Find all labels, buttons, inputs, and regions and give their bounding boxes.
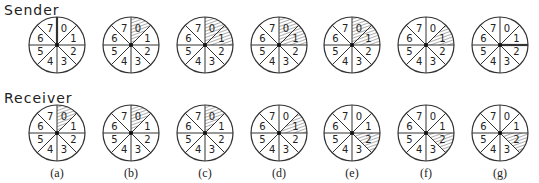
receiver-wheel-b: 01234567	[103, 105, 159, 161]
sector-label: 3	[135, 56, 141, 67]
sector-label: 6	[259, 121, 265, 132]
sector-label: 5	[406, 46, 412, 57]
sector-label: 4	[269, 56, 275, 67]
sector-label: 1	[513, 33, 519, 44]
sector-label: 0	[61, 111, 67, 122]
sender-wheel-b: 01234567	[103, 17, 159, 73]
receiver-wheel-c: 01234567	[177, 105, 233, 161]
sector-label: 4	[342, 56, 348, 67]
sector-label: 6	[37, 33, 43, 44]
sector-label: 4	[195, 144, 201, 155]
sector-label: 6	[406, 33, 412, 44]
sector-label: 2	[513, 134, 519, 145]
sector-label: 4	[342, 144, 348, 155]
sector-label: 7	[195, 111, 201, 122]
sector-label: 7	[416, 23, 422, 34]
sector-label: 3	[209, 144, 215, 155]
sector-label: 5	[259, 46, 265, 57]
sector-label: 6	[332, 33, 338, 44]
sector-label: 5	[332, 134, 338, 145]
sector-label: 6	[185, 33, 191, 44]
sector-label: 1	[70, 33, 76, 44]
sector-label: 6	[185, 121, 191, 132]
sector-label: 2	[365, 134, 371, 145]
sector-label: 2	[218, 134, 224, 145]
sector-label: 4	[47, 144, 53, 155]
hub-dot	[129, 131, 133, 135]
sector-label: 7	[269, 111, 275, 122]
sector-label: 2	[513, 46, 519, 57]
sector-label: 3	[61, 56, 67, 67]
caption-e: (e)	[345, 166, 358, 181]
sector-label: 3	[283, 56, 289, 67]
sector-label: 2	[439, 46, 445, 57]
sector-label: 1	[513, 121, 519, 132]
hub-dot	[277, 43, 281, 47]
sector-label: 0	[61, 23, 67, 34]
hub-dot	[498, 43, 502, 47]
sliding-window-diagram: 0123456701234567012345670123456701234567…	[0, 0, 539, 183]
sector-label: 4	[121, 144, 127, 155]
hub-dot	[277, 131, 281, 135]
sector-label: 3	[283, 144, 289, 155]
sector-label: 5	[332, 46, 338, 57]
sector-label: 7	[490, 23, 496, 34]
sector-label: 2	[218, 46, 224, 57]
hub-dot	[498, 131, 502, 135]
sector-label: 5	[111, 134, 117, 145]
sector-label: 5	[406, 134, 412, 145]
sector-label: 0	[209, 111, 215, 122]
sector-label: 1	[439, 33, 445, 44]
sender-wheel-f: 01234567	[398, 17, 454, 73]
hub-dot	[350, 43, 354, 47]
sector-label: 3	[430, 144, 436, 155]
sector-label: 6	[37, 121, 43, 132]
sector-label: 0	[283, 111, 289, 122]
hub-dot	[55, 131, 59, 135]
sector-label: 4	[47, 56, 53, 67]
receiver-wheel-f: 01234567	[398, 105, 454, 161]
sector-label: 0	[504, 111, 510, 122]
sector-label: 7	[47, 23, 53, 34]
sector-label: 5	[185, 134, 191, 145]
sector-label: 6	[480, 33, 486, 44]
sector-label: 7	[342, 111, 348, 122]
hub-dot	[203, 131, 207, 135]
sector-label: 4	[490, 56, 496, 67]
sector-label: 4	[416, 56, 422, 67]
sender-wheel-d: 01234567	[251, 17, 307, 73]
sector-label: 0	[504, 23, 510, 34]
sector-label: 1	[144, 121, 150, 132]
sector-label: 4	[490, 144, 496, 155]
sector-label: 2	[144, 46, 150, 57]
sector-label: 4	[416, 144, 422, 155]
hub-dot	[129, 43, 133, 47]
sector-label: 1	[292, 121, 298, 132]
sector-label: 2	[70, 46, 76, 57]
sector-label: 0	[356, 23, 362, 34]
hub-dot	[350, 131, 354, 135]
sector-label: 7	[490, 111, 496, 122]
sector-label: 3	[504, 56, 510, 67]
sector-label: 1	[439, 121, 445, 132]
sender-wheel-e: 01234567	[324, 17, 380, 73]
caption-d: (d)	[272, 166, 286, 181]
sender-wheel-a: 01234567	[29, 17, 85, 73]
sector-label: 0	[430, 111, 436, 122]
sector-label: 2	[292, 134, 298, 145]
sector-label: 0	[430, 23, 436, 34]
receiver-wheel-e: 01234567	[324, 105, 380, 161]
sector-label: 3	[430, 56, 436, 67]
sector-label: 2	[70, 134, 76, 145]
caption-f: (f)	[420, 166, 432, 181]
sector-label: 5	[37, 46, 43, 57]
sector-label: 3	[135, 144, 141, 155]
receiver-wheel-d: 01234567	[251, 105, 307, 161]
sector-label: 5	[185, 46, 191, 57]
sector-label: 1	[70, 121, 76, 132]
sector-label: 7	[47, 111, 53, 122]
sender-wheel-g: 01234567	[472, 17, 528, 73]
sector-label: 6	[332, 121, 338, 132]
sector-label: 3	[356, 56, 362, 67]
sector-label: 6	[480, 121, 486, 132]
